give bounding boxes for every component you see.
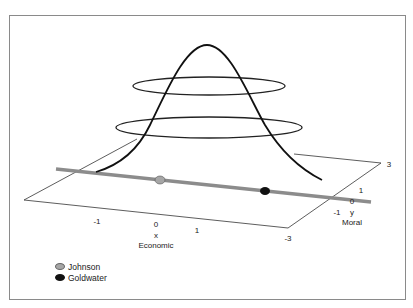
legend-label-goldwater: Goldwater <box>68 273 107 283</box>
legend-item-johnson: Johnson <box>55 261 107 272</box>
x-axis-symbol: x <box>154 231 158 240</box>
johnson-marker <box>155 176 165 184</box>
y-tick-label: -1 <box>333 208 341 217</box>
candidate-line <box>56 169 371 202</box>
x-tick-label: 1 <box>195 226 200 235</box>
legend-item-goldwater: Goldwater <box>55 272 107 283</box>
goldwater-swatch <box>55 274 65 281</box>
plane-edge-left <box>24 139 137 200</box>
y-tick-label: 0 <box>350 197 355 206</box>
legend-label-johnson: Johnson <box>68 262 100 272</box>
x-axis-name: Economic <box>138 241 173 250</box>
preference-bell-curve <box>96 45 322 180</box>
x-tick-label: 0 <box>154 220 159 229</box>
legend: Johnson Goldwater <box>55 261 107 283</box>
x-tick-label: -1 <box>93 217 101 226</box>
y-axis-symbol: y <box>350 208 354 217</box>
contour-ellipse-upper <box>133 77 285 95</box>
plane-edge-back <box>294 154 381 163</box>
johnson-swatch <box>55 263 65 270</box>
y-tick-label: -3 <box>284 234 292 243</box>
goldwater-marker <box>260 187 270 195</box>
y-tick-label: 3 <box>387 160 392 169</box>
y-axis-name: Moral <box>342 218 362 227</box>
y-tick-label: 1 <box>359 186 364 195</box>
